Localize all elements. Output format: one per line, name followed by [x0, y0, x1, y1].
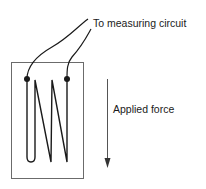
resistive-grid — [27, 79, 67, 162]
gauge-backing — [12, 63, 84, 179]
measuring-circuit-label: To measuring circuit — [93, 17, 186, 29]
right-terminal-dot — [64, 76, 70, 82]
left-terminal-dot — [24, 76, 30, 82]
strain-gauge-diagram: To measuring circuit Applied force — [0, 0, 206, 189]
force-arrow-head-icon — [105, 158, 111, 168]
right-lead-wire — [67, 29, 91, 79]
applied-force-label: Applied force — [113, 103, 174, 115]
